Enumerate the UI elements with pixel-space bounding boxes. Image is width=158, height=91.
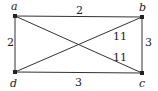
vertex-d [13,70,17,74]
edge-weight-ac: 11 [113,51,127,64]
edge-weight-dc: 3 [75,76,82,89]
vertex-b [140,15,144,19]
edge-weight-bd: 11 [113,30,127,43]
vertex-c [140,71,144,75]
edge-weight-ad: 2 [7,36,14,49]
vertex-label-a: a [11,0,18,13]
edge-weight-ab: 2 [76,4,83,17]
vertex-label-b: b [139,1,146,14]
edge-dc [15,72,142,73]
edge-weight-bc: 3 [145,36,152,49]
vertex-a [13,14,17,18]
vertex-label-c: c [139,77,145,90]
vertex-label-d: d [10,77,17,90]
graph-edges [15,16,142,73]
weighted-graph-diagram: 22331111 abcd [0,0,158,91]
edge-ac [15,16,142,73]
